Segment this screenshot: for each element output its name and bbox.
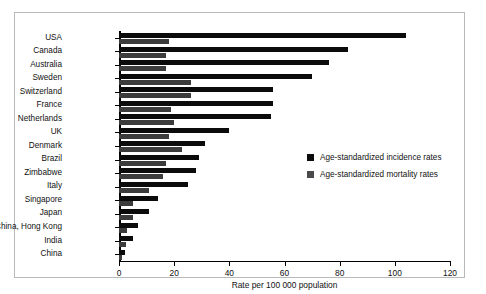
bar-row: USA — [119, 31, 450, 45]
bar-row: Switzerland — [119, 85, 450, 99]
chart-figure: USACanadaAustraliaSwedenSwitzerlandFranc… — [0, 0, 486, 294]
bar-mortality — [119, 93, 191, 98]
y-axis-label: China — [0, 250, 62, 258]
y-axis-label: Netherlands — [0, 115, 62, 123]
x-axis-tick-label: 20 — [154, 268, 194, 278]
bar-mortality — [119, 201, 133, 206]
bar-incidence — [119, 236, 133, 241]
legend-item: Age-standardized mortality rates — [307, 170, 442, 179]
x-axis-tick-label: 40 — [209, 268, 249, 278]
bar-row: UK — [119, 126, 450, 140]
bar-row: France — [119, 99, 450, 113]
x-axis-tick-label: 80 — [320, 268, 360, 278]
bar-incidence — [119, 209, 149, 214]
bar-mortality — [119, 161, 166, 166]
x-axis-tick — [395, 262, 396, 266]
y-axis-label: USA — [0, 34, 62, 42]
bar-mortality — [119, 228, 127, 233]
bar-incidence — [119, 128, 229, 133]
y-axis-label: Zimbabwe — [0, 169, 62, 177]
bar-incidence — [119, 155, 199, 160]
bar-row: India — [119, 234, 450, 248]
legend-item: Age-standardized incidence rates — [307, 153, 442, 162]
y-axis-label: Australia — [0, 61, 62, 69]
bar-mortality — [119, 242, 126, 247]
x-axis-tick — [340, 262, 341, 266]
legend-label: Age-standardized mortality rates — [320, 170, 438, 179]
bar-incidence — [119, 74, 312, 79]
bar-mortality — [119, 147, 182, 152]
bar-incidence — [119, 250, 125, 255]
bar-incidence — [119, 87, 273, 92]
x-axis-tick-label: 100 — [375, 268, 415, 278]
bar-mortality — [119, 255, 122, 260]
y-axis-label: Switzerland — [0, 88, 62, 96]
bar-mortality — [119, 39, 169, 44]
x-axis-tick-label: 0 — [99, 268, 139, 278]
y-axis-label: Japan — [0, 209, 62, 217]
y-axis-label: Singapore — [0, 196, 62, 204]
y-axis-label: Brazil — [0, 155, 62, 163]
figure-frame: USACanadaAustraliaSwedenSwitzerlandFranc… — [14, 12, 465, 278]
y-axis-label: China, Hong Kong — [0, 223, 62, 231]
bar-incidence — [119, 168, 196, 173]
bar-incidence — [119, 47, 348, 52]
bar-row: Singapore — [119, 193, 450, 207]
y-axis-label: UK — [0, 128, 62, 136]
bar-incidence — [119, 33, 406, 38]
bar-incidence — [119, 101, 273, 106]
bar-mortality — [119, 120, 174, 125]
y-axis-label: France — [0, 101, 62, 109]
legend-label: Age-standardized incidence rates — [320, 153, 442, 162]
chart-legend: Age-standardized incidence ratesAge-stan… — [307, 153, 442, 187]
x-axis-tick — [229, 262, 230, 266]
bar-incidence — [119, 182, 188, 187]
x-axis-tick — [174, 262, 175, 266]
bar-mortality — [119, 66, 166, 71]
bar-row: Canada — [119, 45, 450, 59]
bar-mortality — [119, 107, 171, 112]
x-axis-tick — [285, 262, 286, 266]
bar-row: Australia — [119, 58, 450, 72]
bar-mortality — [119, 188, 149, 193]
x-axis-tick-label: 120 — [430, 268, 470, 278]
legend-swatch-incidence — [307, 154, 314, 161]
bar-mortality — [119, 215, 133, 220]
bar-row: Japan — [119, 207, 450, 221]
bar-mortality — [119, 53, 166, 58]
x-axis-title: Rate per 100 000 population — [119, 280, 450, 290]
bar-row: China — [119, 247, 450, 261]
bar-incidence — [119, 196, 158, 201]
y-axis-label: Denmark — [0, 142, 62, 150]
bar-row: China, Hong Kong — [119, 220, 450, 234]
y-axis-label: India — [0, 237, 62, 245]
x-axis-tick — [119, 262, 120, 266]
bar-row: Sweden — [119, 72, 450, 86]
bar-incidence — [119, 141, 205, 146]
x-axis-tick-label: 60 — [265, 268, 305, 278]
bar-row: Netherlands — [119, 112, 450, 126]
y-axis-label: Sweden — [0, 74, 62, 82]
bar-mortality — [119, 134, 169, 139]
y-axis-label: Canada — [0, 47, 62, 55]
bar-incidence — [119, 223, 138, 228]
legend-swatch-mortality — [307, 171, 314, 178]
bar-mortality — [119, 80, 191, 85]
bar-mortality — [119, 174, 163, 179]
bar-incidence — [119, 114, 271, 119]
x-axis-tick — [450, 262, 451, 266]
bar-row: Denmark — [119, 139, 450, 153]
bar-incidence — [119, 60, 329, 65]
y-axis-label: Italy — [0, 182, 62, 190]
